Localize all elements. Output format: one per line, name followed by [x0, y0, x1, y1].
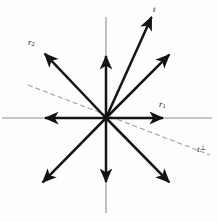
label-r1: r1 [159, 100, 166, 109]
label-r1-subscript: 1 [163, 102, 166, 109]
vector-r2 [45, 54, 106, 118]
vector-r1-opposite-endpoint-marker [51, 116, 55, 120]
vector-t-opposite [43, 118, 106, 182]
vector-r1-endpoint-marker [153, 116, 157, 120]
label-t-base: t [153, 4, 156, 14]
dashed-line-group [28, 85, 210, 155]
vector-diagram-figure: tr2r1t⊥ [0, 0, 218, 222]
label-t-perp: t⊥ [197, 145, 206, 154]
label-t: t [153, 5, 156, 14]
vector-r2-opposite [106, 118, 169, 182]
vector-up-endpoint-marker [104, 62, 108, 66]
label-r2: r2 [28, 38, 35, 47]
vector-down-endpoint-marker [104, 172, 108, 176]
vector-diagram-canvas [0, 0, 218, 222]
origin-point [103, 115, 108, 120]
dashed-line-t-perp [28, 85, 210, 155]
vector-t [106, 17, 152, 118]
label-r2-subscript: 2 [32, 40, 35, 47]
label-t-perp-superscript: ⊥ [200, 144, 206, 151]
